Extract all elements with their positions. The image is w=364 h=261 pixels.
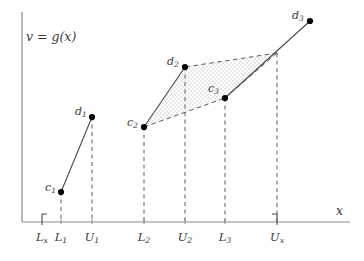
tick-label-L1-main: L xyxy=(55,230,63,244)
point-label-d1-main: d xyxy=(75,105,82,118)
tick-label-L2-main: L xyxy=(138,230,146,244)
point-label-d2-subscript: 2 xyxy=(174,60,179,69)
point-label-d2-main: d xyxy=(167,55,174,68)
tick-label-Lx-subscript: x xyxy=(44,236,48,245)
x-axis-label: x xyxy=(336,205,343,218)
point-c1[interactable] xyxy=(58,189,64,195)
point-c3[interactable] xyxy=(222,95,228,101)
point-label-c3-subscript: 3 xyxy=(214,87,219,96)
point-label-c1: c1 xyxy=(45,182,56,193)
tick-label-Ux-main: U xyxy=(270,230,280,244)
tick-label-Ux-subscript: x xyxy=(280,236,284,245)
point-d2[interactable] xyxy=(182,64,188,70)
figure-container: LxL1U1L2U2L3Uxc1d1c2d2c3d3 v = g(x) x xyxy=(0,0,364,261)
tick-label-U1-subscript: 1 xyxy=(94,236,99,245)
point-label-d3: d3 xyxy=(292,10,304,21)
tick-label-U1: U1 xyxy=(85,232,100,244)
tick-label-U2-main: U xyxy=(178,230,188,244)
tick-label-U2-subscript: 2 xyxy=(187,236,192,245)
point-label-d2: d2 xyxy=(167,56,179,67)
point-label-d3-subscript: 3 xyxy=(299,14,304,23)
bracket-close-ux xyxy=(272,214,277,225)
tick-label-U1-main: U xyxy=(85,230,95,244)
tick-label-Ux: Ux xyxy=(270,232,284,244)
point-label-d1: d1 xyxy=(75,106,87,117)
tick-label-L3-main: L xyxy=(219,230,227,244)
point-label-c2: c2 xyxy=(127,117,138,128)
point-label-c3: c3 xyxy=(208,83,219,94)
segment-c1-d1 xyxy=(61,117,92,192)
bracket-open-lx xyxy=(42,214,47,225)
point-label-c2-subscript: 2 xyxy=(133,121,138,130)
tick-label-L2: L2 xyxy=(138,232,151,244)
point-d3[interactable] xyxy=(307,18,313,24)
y-axis-label: v = g(x) xyxy=(26,31,76,44)
point-d1[interactable] xyxy=(89,114,95,120)
tick-label-L1: L1 xyxy=(55,232,68,244)
tick-label-Lx-main: L xyxy=(36,230,44,244)
tick-label-L3-subscript: 3 xyxy=(226,236,231,245)
tick-label-Lx: Lx xyxy=(36,232,48,244)
tick-label-L3: L3 xyxy=(219,232,232,244)
point-label-d1-subscript: 1 xyxy=(82,110,87,119)
tick-label-U2: U2 xyxy=(178,232,193,244)
point-label-d3-main: d xyxy=(292,9,299,22)
point-label-c1-subscript: 1 xyxy=(51,186,56,195)
point-c2[interactable] xyxy=(141,124,147,130)
tick-label-L1-subscript: 1 xyxy=(62,236,67,245)
tick-label-L2-subscript: 2 xyxy=(145,236,150,245)
